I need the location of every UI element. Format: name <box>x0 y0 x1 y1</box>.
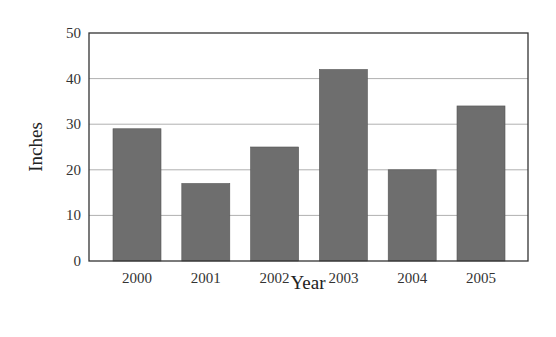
y-tick-label: 30 <box>66 116 81 132</box>
y-axis-ticks: 01020304050 <box>66 25 81 269</box>
x-tick-label: 2000 <box>122 270 152 286</box>
x-tick-label: 2005 <box>466 270 496 286</box>
bar-chart: 01020304050 200020012002200320042005 Yea… <box>0 0 556 337</box>
x-tick-label: 2002 <box>260 270 290 286</box>
x-tick-label: 2003 <box>328 270 358 286</box>
bars <box>113 69 505 261</box>
x-tick-label: 2001 <box>191 270 221 286</box>
y-axis-title: Inches <box>25 122 46 172</box>
y-tick-label: 20 <box>66 162 81 178</box>
x-tick-label: 2004 <box>397 270 428 286</box>
bar-2004 <box>388 170 436 261</box>
x-axis-title: Year <box>290 272 326 293</box>
y-tick-label: 40 <box>66 71 81 87</box>
y-tick-label: 50 <box>66 25 81 41</box>
bar-2002 <box>251 147 299 261</box>
bar-2001 <box>182 183 230 261</box>
bar-2005 <box>457 106 505 261</box>
y-tick-label: 10 <box>66 207 81 223</box>
y-tick-label: 0 <box>74 253 82 269</box>
bar-2000 <box>113 129 161 261</box>
bar-2003 <box>319 69 367 261</box>
